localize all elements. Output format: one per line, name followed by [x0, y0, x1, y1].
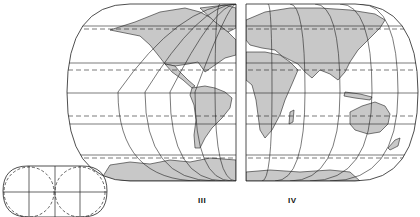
panel-iv-label: IV	[288, 196, 297, 205]
map-figure	[0, 0, 420, 217]
projection-inset-diagram	[3, 166, 107, 217]
madagascar-land	[289, 110, 294, 124]
panel-iv-map	[240, 0, 420, 190]
panel-iii-map	[60, 0, 240, 190]
panel-iii-label: III	[198, 196, 206, 205]
